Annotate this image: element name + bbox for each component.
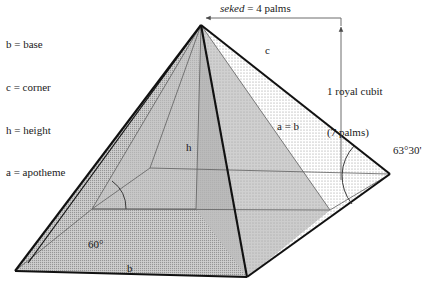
legend-item-base: b = base (6, 37, 65, 51)
edge-label-base: b (127, 262, 133, 276)
edge-label-apotheme: a = b (277, 120, 299, 134)
edge-label-height: h (186, 141, 192, 155)
angle-label-left: 60° (88, 238, 103, 252)
seked-annotation: seked = 4 palms (220, 2, 291, 16)
angle-label-right: 63°30' (393, 144, 421, 158)
seked-measure-arrow (206, 18, 341, 26)
legend: b = base c = corner h = height a = apoth… (6, 9, 65, 208)
cubit-line-2: (7 palms) (327, 126, 383, 140)
royal-cubit-annotation: 1 royal cubit (7 palms) (327, 58, 383, 166)
seked-term: seked (220, 2, 244, 14)
cubit-line-1: 1 royal cubit (327, 85, 383, 99)
legend-item-height: h = height (6, 123, 65, 137)
legend-item-apotheme: a = apotheme (6, 165, 65, 179)
seked-value: = 4 palms (244, 2, 290, 14)
legend-item-corner: c = corner (6, 80, 65, 94)
edge-label-corner: c (265, 44, 270, 58)
pyramid-diagram-figure: b = base c = corner h = height a = apoth… (0, 0, 431, 298)
